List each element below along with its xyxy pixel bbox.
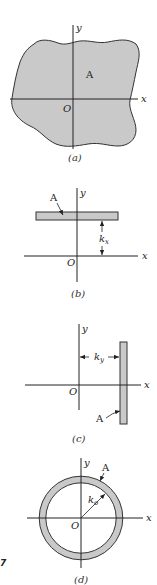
area-leader-arrow — [106, 411, 120, 418]
vertical-strip — [120, 342, 127, 424]
panel-caption: (c) — [72, 433, 86, 444]
figure-number: 7 — [0, 558, 7, 568]
panel-b: y x O A kx (b) — [24, 187, 148, 299]
panel-d: y x O A ko (d) — [27, 457, 152, 585]
y-axis-label: y — [75, 22, 82, 33]
y-axis-label: y — [81, 323, 88, 334]
panel-caption: (a) — [68, 152, 82, 163]
ky-label: ky — [94, 351, 105, 364]
origin-label: O — [69, 386, 77, 397]
area-leader-arrow — [100, 473, 104, 481]
panel-a: y x O A (a) — [10, 22, 147, 163]
panel-caption: (d) — [74, 574, 88, 585]
x-axis-label: x — [142, 250, 148, 261]
y-axis-label: y — [83, 457, 90, 468]
irregular-area-shape — [12, 40, 139, 146]
area-label: A — [49, 192, 58, 203]
area-label: A — [101, 462, 110, 473]
kx-label: kx — [99, 233, 109, 246]
x-axis-label: x — [146, 512, 152, 523]
origin-label: O — [71, 520, 79, 531]
radius-of-gyration-figure: y x O A (a) y x O A kx (b) y x O A ky — [0, 0, 157, 585]
origin-label: O — [67, 257, 75, 268]
y-axis-label: y — [79, 187, 86, 198]
origin-label: O — [63, 103, 71, 114]
x-axis-label: x — [144, 379, 150, 390]
area-label: A — [95, 413, 104, 424]
panel-c: y x O A ky (c) — [25, 323, 150, 444]
ko-label: ko — [88, 494, 98, 507]
area-label: A — [85, 69, 94, 80]
x-axis-label: x — [141, 93, 147, 104]
panel-caption: (b) — [71, 288, 85, 299]
